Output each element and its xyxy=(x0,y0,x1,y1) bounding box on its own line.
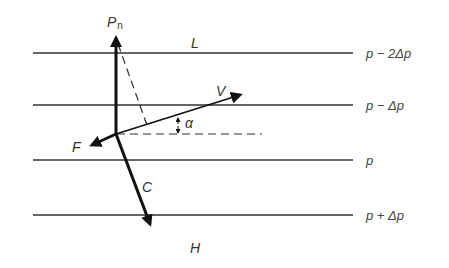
force-balance-diagram: Pn L V α F C H p − 2Δp p − Δp p p + Δp xyxy=(0,0,449,268)
label-high: H xyxy=(190,240,201,256)
isobar-label: p − Δp xyxy=(365,98,404,113)
isobar-label: p + Δp xyxy=(365,208,404,223)
isobar-label: p xyxy=(365,153,373,168)
isobar-label: p − 2Δp xyxy=(365,46,411,61)
label-alpha: α xyxy=(185,115,194,131)
projection-dashed-line xyxy=(118,44,147,125)
label-pressure-gradient: Pn xyxy=(107,14,123,31)
label-low: L xyxy=(191,35,199,51)
friction-vector xyxy=(92,134,116,145)
label-friction: F xyxy=(72,139,82,155)
label-coriolis: C xyxy=(142,179,153,195)
label-velocity: V xyxy=(216,83,227,99)
